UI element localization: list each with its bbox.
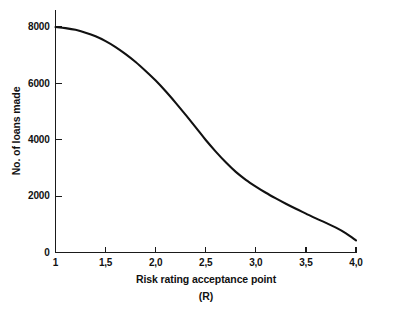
x-tick-label: 3,0 <box>249 257 263 268</box>
x-axis-title: Risk rating acceptance point <box>136 273 277 285</box>
x-tick-label: 2,5 <box>199 257 213 268</box>
line-chart-figure: 02000400060008000 11,52,02,53,03,54,0 Ri… <box>0 0 401 310</box>
chart-page: 02000400060008000 11,52,02,53,03,54,0 Ri… <box>0 0 401 310</box>
x-tick-label: 1 <box>53 257 59 268</box>
y-axis-title: No. of loans made <box>10 86 22 175</box>
x-tick-label: 1,5 <box>99 257 113 268</box>
y-tick-label: 4000 <box>28 134 50 145</box>
y-tick-label: 8000 <box>28 21 50 32</box>
x-tick-label: 4,0 <box>349 257 363 268</box>
x-tick-label: 2,0 <box>149 257 163 268</box>
y-axis-tick-labels: 02000400060008000 <box>28 21 50 258</box>
y-tick-label: 6000 <box>28 78 50 89</box>
x-tick-label: 3,5 <box>299 257 313 268</box>
y-axis-ticks <box>56 27 62 253</box>
chart-svg: 02000400060008000 11,52,02,53,03,54,0 Ri… <box>0 0 401 310</box>
x-axis-tick-labels: 11,52,02,53,03,54,0 <box>53 257 363 268</box>
loans-curve <box>56 27 357 240</box>
y-tick-label: 0 <box>44 247 50 258</box>
x-axis-title-second-line: (R) <box>199 290 213 302</box>
y-tick-label: 2000 <box>28 190 50 201</box>
x-axis-ticks <box>56 247 357 253</box>
